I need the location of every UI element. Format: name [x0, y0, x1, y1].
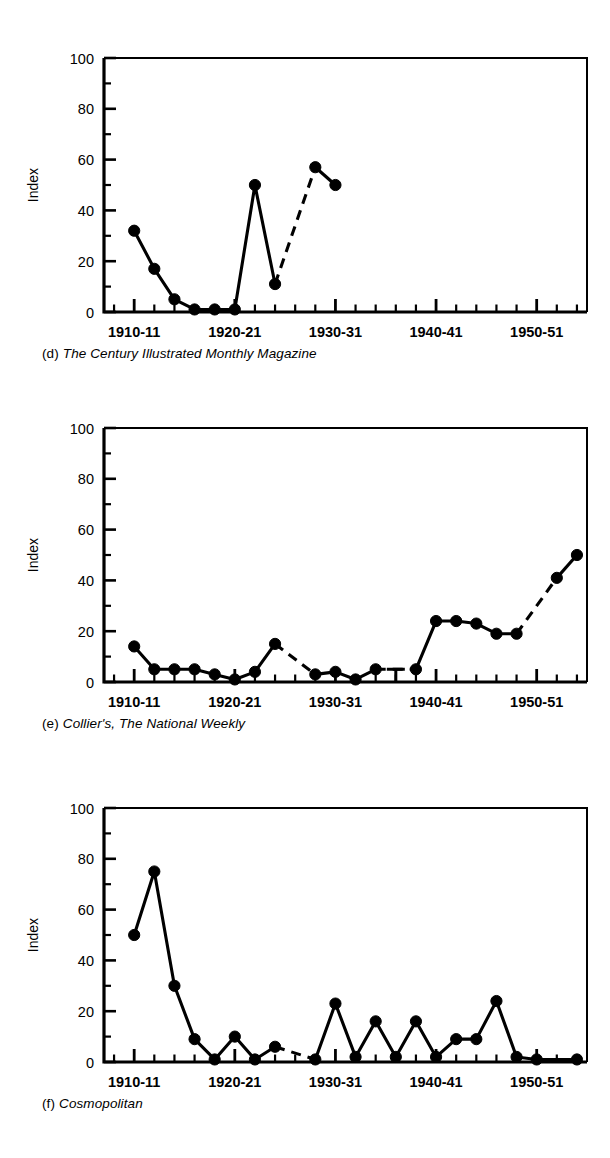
- data-point: [350, 674, 361, 685]
- y-tick-label: 0: [86, 675, 94, 691]
- data-point: [269, 638, 280, 649]
- y-tick-label: 20: [78, 254, 94, 270]
- gap-marker: [387, 669, 405, 682]
- plot-axes: [104, 808, 587, 1062]
- chart-panel-e: 020406080100Index1910-111920-211930-3119…: [0, 400, 610, 755]
- caption-d: (d)The Century Illustrated Monthly Magaz…: [42, 346, 317, 362]
- x-tick-label: 1950-51: [510, 1074, 563, 1090]
- series-segment-solid: [315, 669, 375, 679]
- data-point: [310, 669, 321, 680]
- data-point: [370, 1016, 381, 1027]
- y-tick-label: 100: [70, 51, 94, 67]
- x-tick-label: 1930-31: [309, 1074, 362, 1090]
- chart-panel-f: 020406080100Index1910-111920-211930-3119…: [0, 780, 610, 1140]
- plot-axes: [104, 58, 587, 312]
- data-point: [229, 1031, 240, 1042]
- series-segment-solid: [416, 621, 517, 669]
- data-point: [511, 1051, 522, 1062]
- series-segment-dashed: [517, 578, 557, 634]
- x-tick-label: 1950-51: [510, 694, 563, 710]
- x-tick-label: 1910-11: [108, 324, 160, 340]
- data-point: [249, 1054, 260, 1065]
- y-tick-label: 60: [78, 152, 94, 168]
- x-tick-label: 1910-11: [108, 1074, 160, 1090]
- x-tick-label: 1940-41: [409, 694, 462, 710]
- data-point: [169, 980, 180, 991]
- chart-svg-e: 020406080100Index1910-111920-211930-3119…: [0, 400, 610, 720]
- caption-title-d: The Century Illustrated Monthly Magazine: [59, 346, 317, 361]
- data-point: [129, 929, 140, 940]
- y-tick-label: 100: [70, 801, 94, 817]
- y-axis-label: Index: [25, 538, 41, 572]
- data-point: [209, 304, 220, 315]
- x-tick-label: 1910-11: [108, 694, 160, 710]
- chart-panel-d: 020406080100Index1910-111920-211930-3119…: [0, 30, 610, 375]
- data-point: [249, 179, 260, 190]
- x-tick-label: 1920-21: [208, 694, 261, 710]
- series-segment-solid: [134, 185, 275, 309]
- x-tick-label: 1920-21: [208, 1074, 261, 1090]
- data-point: [511, 628, 522, 639]
- data-point: [430, 615, 441, 626]
- plot-frame: [104, 428, 587, 682]
- data-point: [129, 225, 140, 236]
- data-point: [129, 641, 140, 652]
- x-tick-label: 1930-31: [309, 324, 362, 340]
- data-point: [410, 1016, 421, 1027]
- y-tick-label: 60: [78, 522, 94, 538]
- data-point: [330, 179, 341, 190]
- data-point: [330, 998, 341, 1009]
- data-point: [571, 549, 582, 560]
- y-tick-label: 40: [78, 203, 94, 219]
- data-point: [209, 669, 220, 680]
- chart-svg-f: 020406080100Index1910-111920-211930-3119…: [0, 780, 610, 1100]
- y-tick-label: 100: [70, 421, 94, 437]
- data-point: [149, 263, 160, 274]
- data-point: [189, 304, 200, 315]
- multi-panel-figure: 020406080100Index1910-111920-211930-3119…: [0, 0, 610, 1158]
- x-tick-label: 1920-21: [208, 324, 261, 340]
- data-point: [551, 572, 562, 583]
- x-tick-label: 1940-41: [409, 324, 462, 340]
- caption-tag-e: (e): [42, 716, 59, 731]
- x-tick-label: 1940-41: [409, 1074, 462, 1090]
- data-point: [410, 664, 421, 675]
- x-tick-label: 1950-51: [510, 324, 563, 340]
- y-tick-label: 80: [78, 471, 94, 487]
- data-point: [531, 1054, 542, 1065]
- caption-tag-f: (f): [42, 1096, 55, 1111]
- data-point: [169, 664, 180, 675]
- caption-f: (f)Cosmopolitan: [42, 1096, 143, 1112]
- data-point: [149, 664, 160, 675]
- data-point: [149, 866, 160, 877]
- series-segment-dashed: [275, 167, 315, 284]
- data-point: [330, 666, 341, 677]
- chart-svg-d: 020406080100Index1910-111920-211930-3119…: [0, 30, 610, 350]
- plot-axes: [104, 428, 587, 682]
- series-segment-dashed: [275, 644, 315, 674]
- y-tick-label: 40: [78, 953, 94, 969]
- y-axis-label: Index: [25, 918, 41, 952]
- data-point: [430, 1051, 441, 1062]
- data-point: [310, 1054, 321, 1065]
- data-point: [471, 1034, 482, 1045]
- data-point: [571, 1054, 582, 1065]
- y-tick-label: 40: [78, 573, 94, 589]
- y-axis-label: Index: [25, 168, 41, 202]
- data-point: [209, 1054, 220, 1065]
- data-point: [390, 1051, 401, 1062]
- data-point: [189, 1034, 200, 1045]
- data-point: [229, 674, 240, 685]
- caption-tag-d: (d): [42, 346, 59, 361]
- data-point: [169, 294, 180, 305]
- data-point: [491, 995, 502, 1006]
- caption-e: (e)Collier's, The National Weekly: [42, 716, 245, 732]
- data-point: [370, 664, 381, 675]
- y-tick-label: 0: [86, 1055, 94, 1071]
- data-point: [269, 1041, 280, 1052]
- y-tick-label: 60: [78, 902, 94, 918]
- y-tick-label: 20: [78, 1004, 94, 1020]
- data-point: [350, 1051, 361, 1062]
- data-point: [471, 618, 482, 629]
- data-point: [189, 664, 200, 675]
